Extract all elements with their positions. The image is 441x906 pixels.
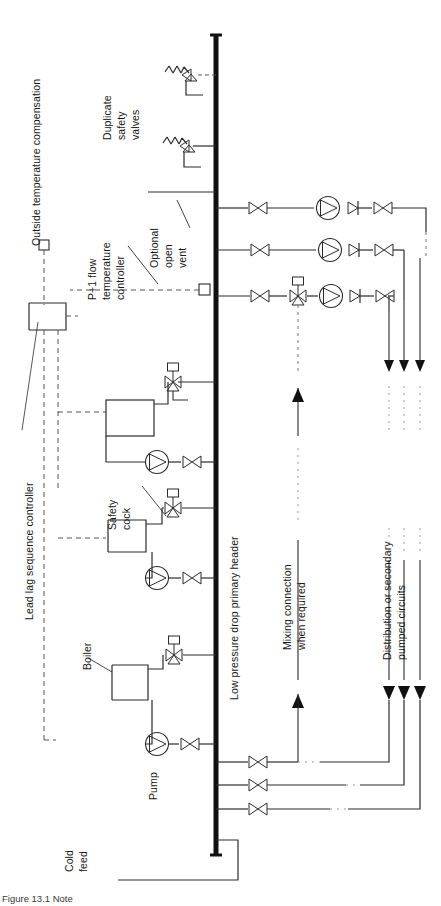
schematic-drawing: [0, 0, 441, 906]
check-valve: [348, 201, 358, 215]
safety-valve-1: [165, 66, 216, 95]
check-valve: [349, 243, 359, 257]
label-safety-cock-line2: cock: [120, 508, 133, 530]
label-distribution-circuits-line2: pumped circuits: [395, 585, 408, 660]
return-2: [216, 700, 404, 791]
mixing-connection-riser: [292, 388, 304, 520]
regulating-valve: [375, 244, 393, 256]
return-1: [216, 700, 389, 768]
label-flow-temperature-controller-line1: P+1 flow: [86, 259, 99, 300]
return-valve: [249, 779, 267, 791]
label-boiler: Boiler: [81, 643, 94, 670]
label-distribution-circuits-line1: Distribution or secondary: [381, 541, 394, 660]
primary-header-pipe: [210, 34, 222, 856]
boiler-1: [106, 363, 216, 436]
cold-feed: [185, 840, 238, 880]
boiler-1-pump-group: [106, 436, 216, 474]
isolating-valve: [251, 244, 269, 256]
label-duplicate-safety-valves-line2: safety: [115, 111, 128, 140]
isolating-valve: [249, 202, 267, 214]
label-flow-temperature-controller-line2: temperature: [100, 242, 113, 300]
pump-icon: [320, 285, 343, 308]
boiler-3-pump-group: [145, 700, 216, 756]
return-valve: [249, 803, 267, 815]
secondary-circuit-3: [216, 277, 394, 372]
label-optional-open-vent-line1: Optional: [148, 228, 161, 268]
label-lead-lag-sequence-controller: Lead lag sequence controller: [23, 482, 36, 620]
label-mixing-connection-line1: Mixing connection: [281, 564, 294, 650]
valve-icon: [181, 738, 199, 750]
safety-valve-2: [163, 137, 216, 167]
label-safety-cock-line1: Safety: [106, 500, 119, 530]
regulating-valve: [374, 202, 392, 214]
outside-temperature-sensor: [39, 240, 49, 305]
return-valve: [249, 756, 267, 768]
label-optional-open-vent-line3: vent: [176, 248, 189, 268]
label-primary-header: Low pressure drop primary header: [228, 536, 241, 700]
figure-canvas: Outside temperature compensation Duplica…: [0, 0, 441, 906]
isolating-valve: [251, 290, 269, 302]
figure-caption: Figure 13.1 Note: [2, 893, 202, 906]
label-optional-open-vent-line2: open: [162, 244, 175, 268]
boiler-2-pump-group: [145, 552, 216, 590]
safety-cock-valve: [166, 636, 182, 664]
pump-icon: [319, 239, 342, 262]
mixing-return-lower: [292, 540, 304, 762]
label-cold-feed-line2: feed: [77, 851, 90, 872]
label-duplicate-safety-valves-line3: valves: [129, 110, 142, 140]
label-outside-temperature-compensation: Outside temperature compensation: [30, 79, 43, 246]
check-valve: [350, 289, 360, 303]
pump-icon: [146, 451, 169, 474]
optional-open-vent: [148, 192, 216, 228]
secondary-circuit-1: [216, 197, 426, 259]
pump-icon: [317, 197, 340, 220]
label-cold-feed-line1: Cold: [63, 850, 76, 872]
label-pump: Pump: [147, 772, 160, 800]
safety-cock-valve: [165, 489, 181, 517]
mixing-valve: [290, 277, 306, 305]
valve-icon: [183, 572, 201, 584]
label-duplicate-safety-valves-line1: Duplicate: [101, 95, 114, 140]
label-flow-temperature-controller-line3: controller: [114, 256, 127, 300]
boiler-3: [88, 636, 216, 700]
label-mixing-connection-line2: when required: [295, 582, 308, 650]
valve-icon: [183, 456, 201, 468]
